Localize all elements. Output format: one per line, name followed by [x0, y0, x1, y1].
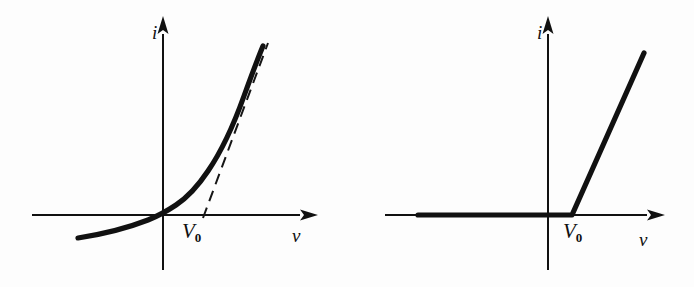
- threshold-voltage-subscript: 0: [195, 230, 202, 245]
- threshold-voltage-symbol: V: [182, 219, 195, 243]
- threshold-voltage-symbol: V: [563, 219, 576, 243]
- x-axis-label-v: v: [639, 230, 647, 249]
- piecewise-linear-iv-curve: [418, 53, 644, 215]
- threshold-voltage-subscript: 0: [576, 230, 583, 245]
- x-axis-label-v: v: [292, 226, 300, 245]
- exponential-iv-curve: [78, 46, 263, 238]
- threshold-voltage-label: V0: [182, 221, 201, 242]
- x-axis-arrowhead-icon: [647, 210, 665, 221]
- panel-exponential-diode-characteristic: i v V0: [0, 0, 347, 287]
- panel-piecewise-linear-diode-model: i v V0: [347, 0, 694, 287]
- y-axis-label-i: i: [152, 23, 157, 42]
- figure-root: i v V0 i v V0: [0, 0, 694, 287]
- x-axis-arrowhead-icon: [300, 210, 318, 221]
- y-axis-arrowhead-icon: [158, 16, 169, 34]
- threshold-voltage-label: V0: [563, 221, 582, 242]
- y-axis-arrowhead-icon: [543, 16, 554, 34]
- y-axis-label-i: i: [537, 23, 542, 42]
- tangent-line: [203, 43, 268, 218]
